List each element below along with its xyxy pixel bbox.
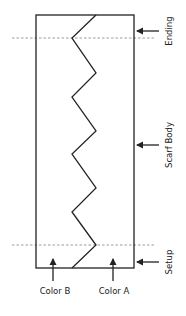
color-boundary-zigzag bbox=[72, 15, 96, 268]
ending-label: Ending bbox=[164, 16, 174, 45]
color-a-label: Color A bbox=[99, 286, 130, 296]
color-b-label: Color B bbox=[40, 286, 71, 296]
setup-label: Setup bbox=[164, 250, 174, 275]
scarf-body-label: Scarf Body bbox=[164, 122, 174, 168]
scarf-diagram: Ending Scarf Body Setup Color B Color A bbox=[0, 0, 186, 316]
